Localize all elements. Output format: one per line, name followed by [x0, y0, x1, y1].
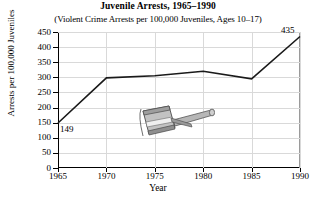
gavel-icon	[129, 98, 215, 150]
data-point-label: 435	[281, 25, 295, 35]
data-point-label: 149	[60, 124, 74, 134]
chart-figure: Juvenile Arrests, 1965–1990 (Violent Cri…	[0, 0, 316, 200]
x-axis-title: Year	[0, 183, 316, 193]
